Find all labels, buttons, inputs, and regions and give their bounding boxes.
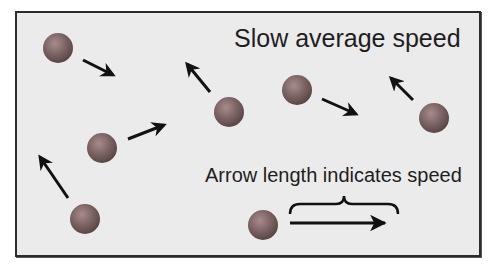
velocity-arrow-icon [83,60,113,75]
particle-sphere [70,204,100,234]
velocity-arrow-icon [40,157,68,198]
velocity-arrow-icon [128,125,164,139]
particle-sphere [248,210,278,240]
velocity-arrow-icon [187,64,210,92]
particle-sphere [214,97,244,127]
particles-group [40,33,449,240]
particle-sphere [282,75,312,105]
diagram-title: Slow average speed [234,24,461,53]
legend-label: Arrow length indicates speed [205,164,462,187]
velocity-arrow-icon [391,78,413,100]
legend-group [290,196,398,223]
brace-icon [290,196,398,214]
particle-sphere [419,103,449,133]
particle-sphere [87,133,117,163]
particle-sphere [43,33,73,63]
velocity-arrow-icon [322,99,356,114]
